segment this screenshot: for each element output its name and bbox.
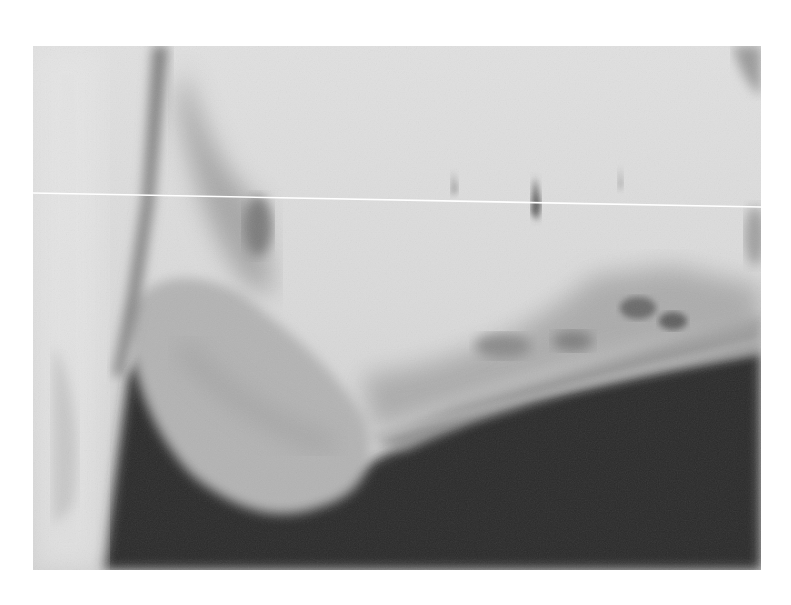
xray-graphic: [33, 46, 761, 570]
xray-image: [33, 46, 761, 570]
